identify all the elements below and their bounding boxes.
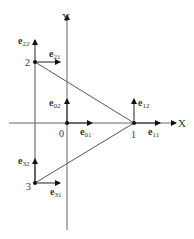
label-e22: e22	[18, 35, 30, 48]
y-axis-label: Y	[62, 11, 70, 23]
edge-2-1	[35, 62, 134, 123]
label-e21: e21	[49, 48, 61, 61]
label-e11: e11	[148, 126, 160, 139]
label-e12: e12	[138, 97, 150, 110]
node-0-label: 0	[59, 128, 64, 139]
node-1	[132, 121, 136, 125]
label-e32: e32	[18, 155, 30, 168]
label-e02: e02	[49, 97, 61, 110]
node-1-label: 1	[131, 129, 136, 140]
label-e31: e31	[50, 186, 62, 199]
node-2	[33, 60, 37, 64]
node-3	[33, 181, 37, 185]
label-e01: e01	[80, 126, 92, 139]
diagram-canvas: X Y 0 1 2 3 e22 e21 e02 e01 e12 e11 e32 …	[0, 0, 194, 239]
node-2-label: 2	[25, 57, 30, 68]
x-axis-label: X	[178, 117, 186, 129]
node-0	[65, 121, 69, 125]
node-3-label: 3	[26, 181, 31, 192]
